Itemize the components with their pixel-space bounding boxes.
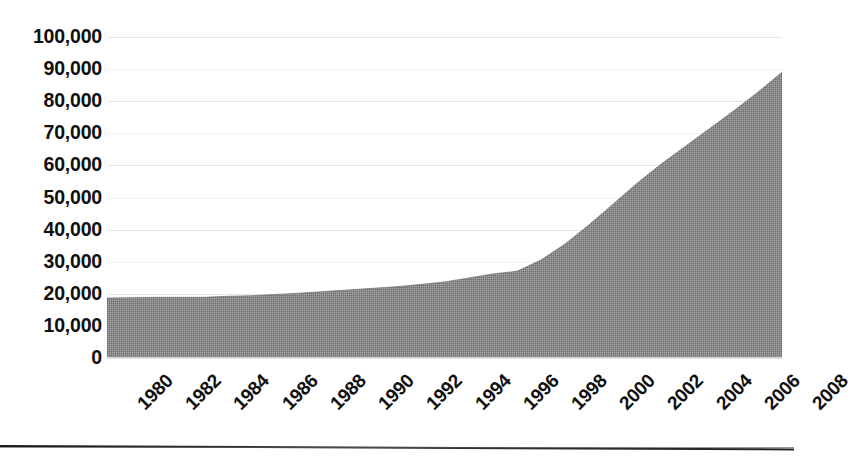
x-tick-label: 1982 xyxy=(181,370,226,415)
x-tick-label: 2002 xyxy=(663,370,708,415)
x-tick-label: 1998 xyxy=(567,370,612,415)
x-tick-label: 1990 xyxy=(374,370,419,415)
y-tick-label: 10,000 xyxy=(2,316,102,336)
x-tick-label: 1984 xyxy=(229,370,274,415)
y-tick-label: 90,000 xyxy=(2,59,102,79)
y-tick-label: 20,000 xyxy=(2,284,102,304)
y-tick-label: 80,000 xyxy=(2,91,102,111)
x-tick-label: 1986 xyxy=(278,370,323,415)
x-tick-label: 1992 xyxy=(422,370,467,415)
x-axis: 1980198219841986198819901992199419961998… xyxy=(107,358,782,453)
y-tick-label: 0 xyxy=(2,348,102,368)
y-axis: 100,00090,00080,00070,00060,00050,00040,… xyxy=(0,0,102,400)
x-tick-label: 2006 xyxy=(760,370,805,415)
x-tick-label: 1994 xyxy=(471,370,516,415)
x-tick-label: 2004 xyxy=(712,370,757,415)
y-tick-label: 100,000 xyxy=(2,27,102,47)
y-tick-label: 50,000 xyxy=(2,188,102,208)
x-tick-label: 1980 xyxy=(133,370,178,415)
plot-area xyxy=(107,37,782,358)
area-series xyxy=(107,37,782,358)
x-tick-label: 1988 xyxy=(326,370,371,415)
y-tick-label: 70,000 xyxy=(2,124,102,144)
x-tick-label: 1996 xyxy=(519,370,564,415)
x-tick-label: 2008 xyxy=(808,370,852,415)
y-tick-label: 40,000 xyxy=(2,220,102,240)
page-rule-shadow xyxy=(0,447,794,448)
y-tick-label: 60,000 xyxy=(2,156,102,176)
x-tick-label: 2000 xyxy=(615,370,660,415)
y-tick-label: 30,000 xyxy=(2,252,102,272)
